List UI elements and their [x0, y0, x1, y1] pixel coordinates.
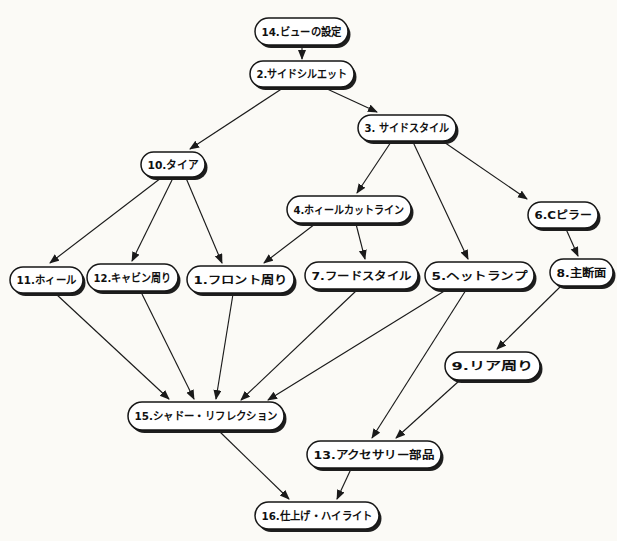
node-8: 8.主断面 — [550, 259, 616, 289]
node-label: 4.ホィールカットライン — [294, 204, 405, 217]
node-label: 7.フードスタイル — [312, 270, 412, 283]
node-label: 1.フロント周り — [194, 274, 288, 287]
node-11: 11.ホィール — [10, 267, 86, 296]
node-label: 9.リア周り — [452, 360, 534, 373]
node-4: 4.ホィールカットライン — [287, 196, 414, 226]
node-label: 2.サイドシルエット — [257, 68, 348, 81]
node-label: 5.ヘットランプ — [432, 269, 529, 283]
node-7: 7.フードスタイル — [305, 262, 421, 292]
node-label: 11.ホィール — [17, 274, 77, 287]
node-label: 14.ビューの設定 — [262, 25, 342, 39]
node-5: 5.ヘットランプ — [425, 262, 537, 292]
node-label: 15.シャドー・リフレクション — [135, 410, 278, 423]
node-16: 16.仕上げ・ハイライト — [255, 502, 382, 532]
node-label: 3. サイドスタイル — [365, 122, 450, 135]
node-2: 2.サイドシルエット — [250, 61, 357, 90]
node-9: 9.リア周り — [445, 352, 543, 383]
node-1: 1.フロント周り — [187, 266, 297, 296]
node-10: 10.タイア — [141, 152, 208, 180]
node-label: 16.仕上げ・ハイライト — [262, 509, 373, 523]
node-label: 13.アクセサリー部品 — [314, 448, 435, 462]
node-12: 12.キャビン周り — [87, 264, 181, 294]
node-label: 10.タイア — [148, 159, 199, 172]
node-3: 3. サイドスタイル — [358, 115, 459, 144]
node-14: 14.ビューの設定 — [255, 18, 351, 48]
node-13: 13.アクセサリー部品 — [307, 441, 444, 471]
node-label: 12.キャビン周り — [94, 271, 172, 285]
dependency-diagram: 14.ビューの設定2.サイドシルエット3. サイドスタイル10.タイア4.ホィー… — [0, 0, 617, 541]
node-label: 8.主断面 — [557, 266, 607, 280]
node-6: 6.Cピラー — [528, 202, 601, 231]
node-15: 15.シャドー・リフレクション — [128, 402, 287, 433]
node-label: 6.Cピラー — [535, 209, 592, 222]
diagram-canvas: 14.ビューの設定2.サイドシルエット3. サイドスタイル10.タイア4.ホィー… — [0, 0, 617, 541]
